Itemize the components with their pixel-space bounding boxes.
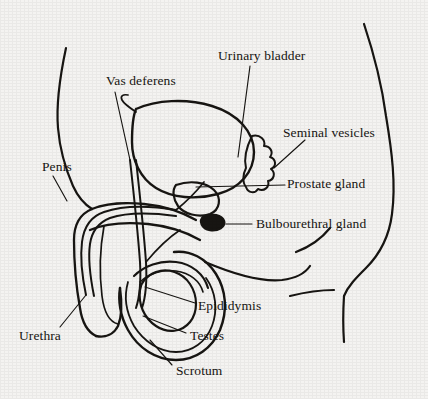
label-epididymis: Epididymis [198, 299, 261, 313]
label-urethra: Urethra [19, 329, 61, 343]
label-vas-deferens: Vas deferens [106, 74, 176, 88]
label-layer: Urinary bladder Vas deferens Seminal ves… [0, 0, 428, 399]
label-bulbourethral-gland: Bulbourethral gland [256, 217, 366, 231]
label-seminal-vesicles: Seminal vesicles [283, 126, 375, 140]
label-scrotum: Scrotum [176, 364, 222, 378]
label-prostate-gland: Prostate gland [287, 177, 365, 191]
label-urinary-bladder: Urinary bladder [218, 49, 305, 63]
label-testes: Testes [190, 329, 224, 343]
anatomy-diagram: Urinary bladder Vas deferens Seminal ves… [0, 0, 428, 399]
label-penis: Penis [42, 160, 72, 174]
